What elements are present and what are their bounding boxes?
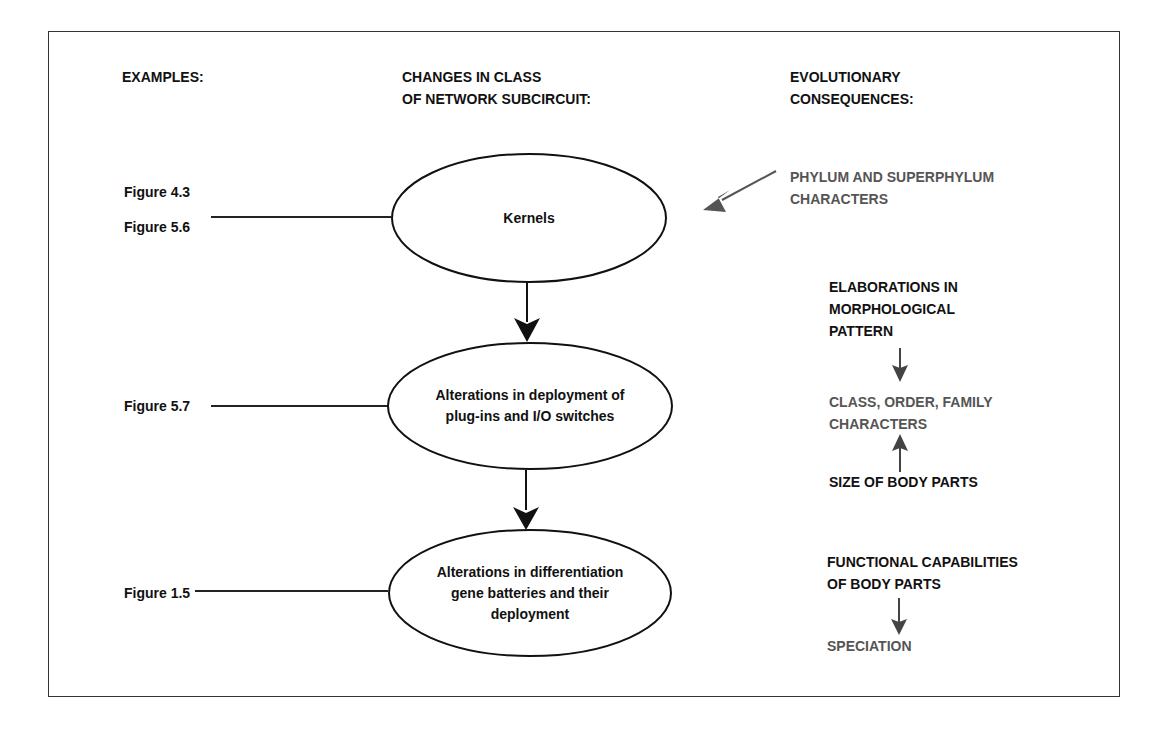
- consequence-class-line1: CLASS, ORDER, FAMILY: [829, 391, 993, 413]
- node-gene-batteries: Alterations in differentiation gene batt…: [389, 530, 671, 656]
- consequence-functional-line2: OF BODY PARTS: [827, 573, 1018, 595]
- node-gene-batteries-line3: deployment: [437, 604, 624, 625]
- arrow-down-icon: [513, 470, 539, 530]
- node-plugins: Alterations in deployment of plug-ins an…: [388, 343, 672, 469]
- consequence-size: SIZE OF BODY PARTS: [829, 471, 978, 493]
- node-kernels: Kernels: [392, 154, 666, 282]
- consequence-functional-line1: FUNCTIONAL CAPABILITIES: [827, 551, 1018, 573]
- consequence-speciation: SPECIATION: [827, 635, 912, 657]
- node-plugins-line1: Alterations in deployment of: [435, 385, 624, 406]
- arrow-down-icon: [514, 282, 540, 342]
- consequence-functional: FUNCTIONAL CAPABILITIES OF BODY PARTS: [827, 551, 1018, 595]
- node-gene-batteries-line2: gene batteries and their: [437, 583, 624, 604]
- consequence-phylum-line1: PHYLUM AND SUPERPHYLUM: [790, 166, 994, 188]
- consequence-phylum-line2: CHARACTERS: [790, 188, 994, 210]
- node-gene-batteries-line1: Alterations in differentiation: [437, 562, 624, 583]
- node-plugins-line2: plug-ins and I/O switches: [435, 406, 624, 427]
- arrow-diagonal-icon: [703, 171, 776, 212]
- arrow-down-icon: [892, 348, 908, 382]
- arrow-down-icon: [891, 598, 907, 635]
- consequence-class-line2: CHARACTERS: [829, 413, 993, 435]
- arrow-up-icon: [892, 434, 908, 472]
- consequence-elaborations: ELABORATIONS IN MORPHOLOGICAL PATTERN: [829, 276, 958, 342]
- consequence-class-order-family: CLASS, ORDER, FAMILY CHARACTERS: [829, 391, 993, 435]
- node-kernels-label: Kernels: [503, 208, 554, 229]
- consequence-elaborations-line2: MORPHOLOGICAL: [829, 298, 958, 320]
- consequence-phylum: PHYLUM AND SUPERPHYLUM CHARACTERS: [790, 166, 994, 210]
- consequence-elaborations-line3: PATTERN: [829, 320, 958, 342]
- consequence-elaborations-line1: ELABORATIONS IN: [829, 276, 958, 298]
